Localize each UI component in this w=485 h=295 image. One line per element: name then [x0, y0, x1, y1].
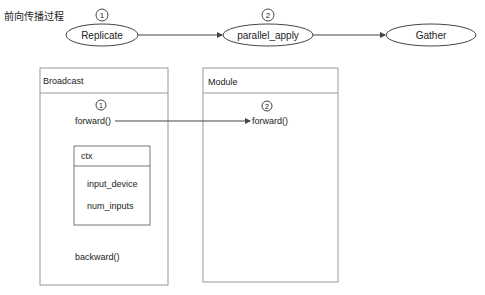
step-marker-1: 1 [96, 9, 108, 21]
module-box: Module 2 forward() [203, 68, 338, 282]
node-parallel-apply[interactable]: parallel_apply [223, 24, 313, 46]
node-replicate[interactable]: Replicate [66, 24, 138, 46]
ctx-field-num-inputs: num_inputs [87, 201, 134, 211]
svg-text:parallel_apply: parallel_apply [237, 30, 299, 41]
svg-text:Replicate: Replicate [81, 30, 123, 41]
ctx-title: ctx [81, 151, 93, 161]
ctx-box: ctx input_device num_inputs [74, 146, 150, 225]
ctx-field-input-device: input_device [87, 179, 138, 189]
diagram-canvas: 前向传播过程 1 2 Replicate parallel_apply Gath… [0, 0, 485, 295]
node-gather[interactable]: Gather [386, 24, 476, 46]
svg-text:1: 1 [100, 11, 105, 20]
broadcast-step: 1 [99, 102, 103, 109]
broadcast-backward: backward() [75, 252, 120, 262]
diagram-title: 前向传播过程 [4, 10, 64, 22]
broadcast-box: Broadcast 1 forward() ctx input_device n… [40, 68, 168, 285]
svg-text:2: 2 [266, 11, 271, 20]
module-step: 2 [265, 103, 269, 110]
step-marker-2: 2 [262, 9, 274, 21]
broadcast-forward: forward() [75, 116, 111, 126]
broadcast-title: Broadcast [43, 76, 84, 86]
module-forward: forward() [252, 116, 288, 126]
module-title: Module [208, 77, 238, 87]
svg-text:Gather: Gather [416, 30, 447, 41]
